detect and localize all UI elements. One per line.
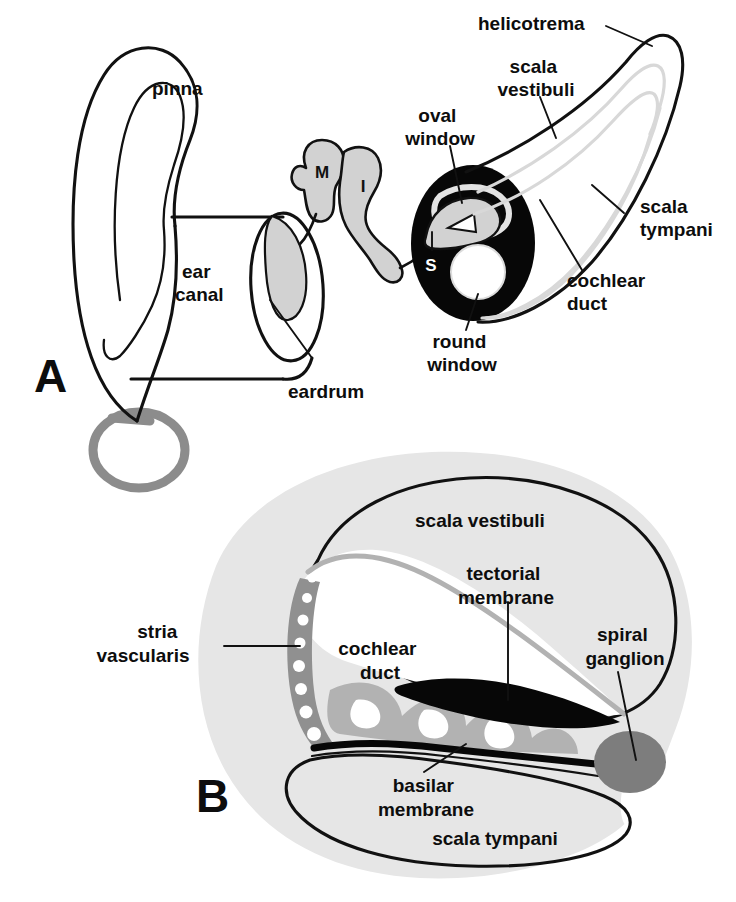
- label-scala-tympani-line1: scala: [640, 196, 688, 217]
- ossicle-label-incus: I: [361, 177, 366, 196]
- panel-b-group: scala vestibuli tectorial membrane spira…: [97, 452, 692, 879]
- spiral-ganglion-body: [594, 731, 666, 793]
- label-stria-vascularis: stria vascularis: [97, 621, 190, 666]
- panel-a-group: pinna ear canal eardrum oval window roun…: [34, 13, 713, 488]
- label-oval-window: oval window: [404, 105, 475, 149]
- label-scala-tympani-b: scala tympani: [432, 828, 558, 849]
- label-cochlear-duct-line2: duct: [567, 293, 608, 314]
- leader-helicotrema: [606, 26, 652, 46]
- label-cochlear-duct-b-line2: duct: [360, 662, 401, 683]
- label-cochlear-duct-b-line1: cochlear: [338, 638, 417, 659]
- label-tectorial-membrane-line1: tectorial: [466, 563, 540, 584]
- incus-bone: [339, 147, 402, 282]
- round-window-opening: [451, 245, 505, 299]
- label-scala-tympani: scala tympani: [640, 196, 713, 240]
- label-stria-vascularis-line1: stria: [137, 621, 178, 642]
- label-pinna: pinna: [152, 78, 203, 99]
- panel-letter-a: A: [34, 350, 67, 402]
- label-round-window-line2: window: [426, 354, 497, 375]
- label-ear-canal-line1: ear: [182, 261, 211, 282]
- label-spiral-ganglion-line2: ganglion: [585, 648, 664, 669]
- label-scala-vestibuli-b: scala vestibuli: [415, 510, 545, 531]
- label-round-window-line1: round: [432, 331, 486, 352]
- leader-scala-tympani: [592, 185, 624, 213]
- leader-cochlear-duct: [540, 200, 582, 270]
- label-scala-vestibuli-line1: scala: [510, 56, 558, 77]
- figure-root: pinna ear canal eardrum oval window roun…: [0, 0, 736, 902]
- label-stria-vascularis-line2: vascularis: [97, 645, 190, 666]
- label-ear-canal-line2: canal: [175, 284, 224, 305]
- label-ear-canal: ear canal: [175, 261, 224, 305]
- label-tectorial-membrane-line2: membrane: [458, 587, 554, 608]
- panel-letter-b: B: [196, 770, 229, 822]
- label-round-window: round window: [426, 331, 497, 375]
- pinna-inner-helix: [115, 83, 184, 300]
- label-scala-tympani-line2: tympani: [640, 219, 713, 240]
- label-basilar-membrane-line2: membrane: [378, 799, 474, 820]
- label-scala-vestibuli: scala vestibuli: [497, 56, 574, 100]
- ear-anatomy-figure: pinna ear canal eardrum oval window roun…: [0, 0, 736, 902]
- label-cochlear-duct-line1: cochlear: [567, 270, 646, 291]
- label-cochlear-duct: cochlear duct: [567, 270, 650, 314]
- label-spiral-ganglion-line1: spiral: [597, 624, 648, 645]
- label-basilar-membrane-line1: basilar: [393, 775, 455, 796]
- ossicle-label-malleus: M: [315, 163, 329, 182]
- label-helicotrema: helicotrema: [478, 13, 585, 34]
- ossicle-label-stapes: S: [425, 256, 436, 275]
- label-scala-vestibuli-line2: vestibuli: [497, 79, 574, 100]
- pinna-concha-fold: [104, 230, 165, 359]
- label-oval-window-line1: oval: [418, 105, 456, 126]
- label-eardrum: eardrum: [288, 381, 364, 402]
- label-oval-window-line2: window: [404, 128, 475, 149]
- middle-ear-soft-tissue: [265, 216, 306, 320]
